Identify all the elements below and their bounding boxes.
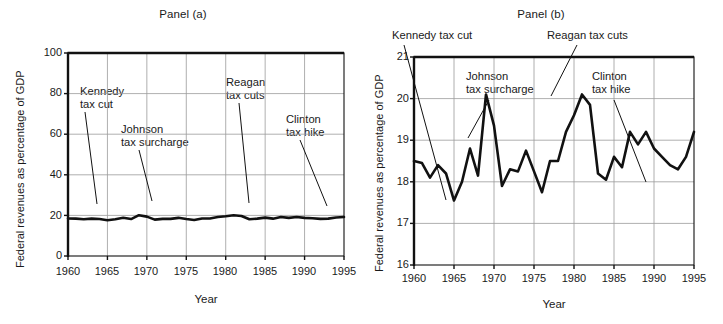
panel-a-plot	[0, 0, 362, 324]
figure-two-panel-federal-revenues: Panel (a) Federal revenues as percentage…	[0, 0, 723, 324]
panel-a: Panel (a) Federal revenues as percentage…	[0, 0, 362, 324]
panel-b-plot	[361, 0, 723, 324]
panel-b: Panel (b) Federal revenues as percentage…	[361, 0, 723, 324]
